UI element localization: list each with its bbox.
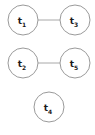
node-t2[interactable]: t2 [8, 48, 38, 78]
node-t3-label-subscript: 3 [74, 20, 78, 27]
node-t5-label-subscript: 5 [74, 63, 78, 70]
node-t1[interactable]: t1 [8, 5, 38, 35]
node-t5[interactable]: t5 [60, 48, 90, 78]
node-t3[interactable]: t3 [60, 5, 90, 35]
node-t1-label-subscript: 1 [22, 20, 26, 27]
graph-diagram-canvas: t1 t3 t2 t5 [0, 0, 95, 135]
edge-layer [38, 20, 60, 63]
graph-diagram-svg: t1 t3 t2 t5 [0, 0, 95, 135]
node-t2-label-subscript: 2 [22, 63, 26, 70]
node-t4-label-subscript: 4 [48, 107, 52, 114]
node-t4[interactable]: t4 [34, 92, 64, 122]
